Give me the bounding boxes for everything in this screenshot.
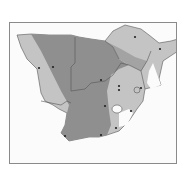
city-point [134,36,136,38]
city-point [100,79,102,81]
city-point [118,85,120,87]
city-point [140,87,142,89]
southern-africa-map [10,23,177,164]
city-point [64,135,66,137]
city-point [159,48,161,50]
lesotho [112,105,122,113]
city-point [100,134,102,136]
city-point [38,67,40,69]
city-point [115,127,117,129]
city-point [130,110,132,112]
map-frame [9,22,177,164]
city-point [118,89,120,91]
city-point [52,66,54,68]
swaziland [134,87,140,93]
city-point [104,105,106,107]
